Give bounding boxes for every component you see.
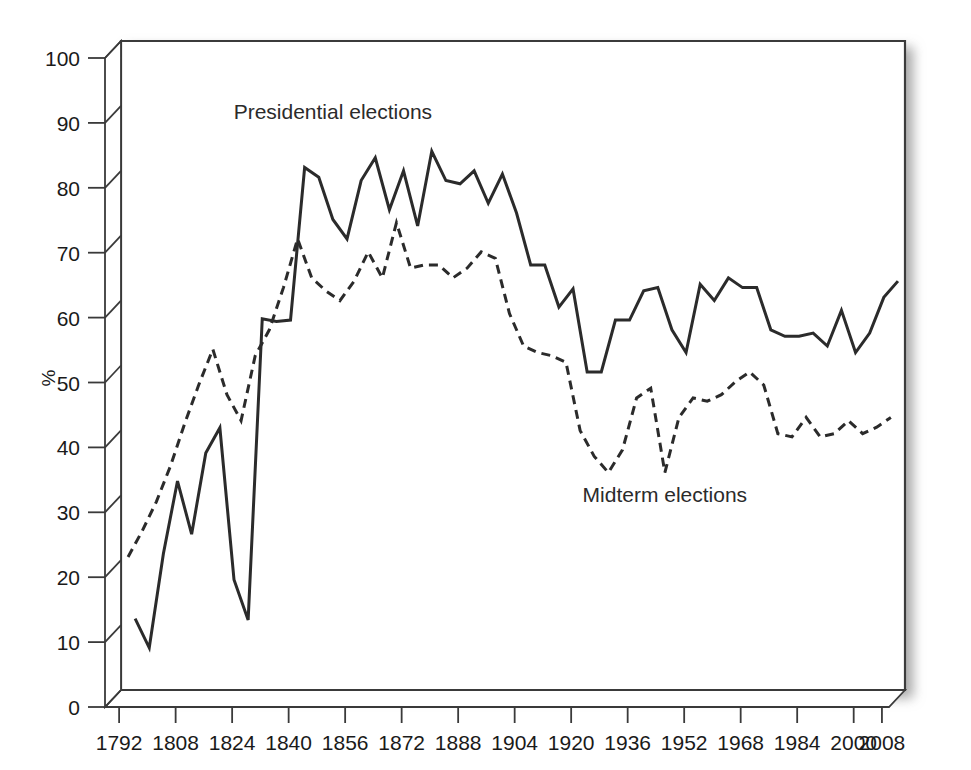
- chart-page: 0102030405060708090100 17921808182418401…: [0, 0, 971, 770]
- x-axis: 1792180818241840185618721888190419201936…: [96, 707, 906, 754]
- series-annotation: Presidential elections: [234, 100, 432, 123]
- x-tick-label: 1984: [774, 731, 821, 754]
- y-tick-label: 80: [57, 177, 80, 200]
- y-tick-label: 20: [57, 566, 80, 589]
- x-tick-label: 1952: [661, 731, 708, 754]
- y-tick-label: 50: [57, 372, 80, 395]
- y-axis-title: %: [38, 369, 59, 386]
- y-tick-label: 40: [57, 436, 80, 459]
- x-tick-label: 1936: [604, 731, 651, 754]
- x-tick-label: 1920: [548, 731, 595, 754]
- y-tick-label: 30: [57, 501, 80, 524]
- series-annotation: Midterm elections: [583, 483, 748, 506]
- x-tick-label: 1968: [717, 731, 764, 754]
- x-tick-label: 1872: [378, 731, 425, 754]
- plot-box-frame: [105, 41, 905, 707]
- x-tick-label: 1888: [435, 731, 482, 754]
- y-tick-label: 10: [57, 631, 80, 654]
- y-tick-label: 60: [57, 307, 80, 330]
- x-tick-label: 1856: [322, 731, 369, 754]
- x-tick-label: 1824: [209, 731, 256, 754]
- x-tick-label: 1792: [96, 731, 143, 754]
- x-tick-label: 2008: [859, 731, 906, 754]
- y-tick-label: 0: [68, 696, 80, 719]
- y-tick-label: 70: [57, 242, 80, 265]
- y-tick-label: 90: [57, 112, 80, 135]
- x-tick-label: 1840: [265, 731, 312, 754]
- x-tick-label: 1808: [152, 731, 199, 754]
- y-tick-label: 100: [45, 47, 80, 70]
- voter-turnout-line-chart: 0102030405060708090100 17921808182418401…: [0, 0, 971, 770]
- x-tick-label: 1904: [491, 731, 538, 754]
